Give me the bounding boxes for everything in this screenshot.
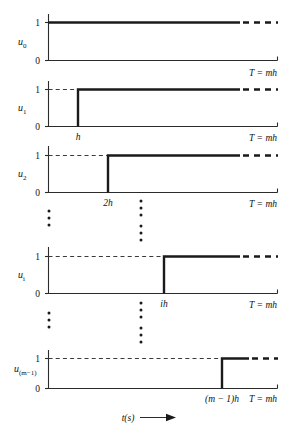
panel-u2-axes (49, 146, 278, 193)
panel-u0-ylabel-sub: 0 (23, 42, 27, 50)
panel-um1-end-label: T = mh (249, 394, 277, 404)
panel-um1: 1 0 u(m−1) (m − 1)h T = mh (14, 350, 278, 405)
panel-u1-ylabel: u1 (18, 102, 27, 116)
panel-u1-signal (78, 90, 240, 127)
panel-u0-end-label: T = mh (249, 68, 277, 78)
panel-u1-end-label: T = mh (249, 133, 277, 143)
x-axis-label: t(s) (122, 413, 135, 424)
panel-u0-ylabel: u0 (18, 36, 27, 50)
panel-ui-ytick-high: 1 (35, 252, 40, 262)
panel-u0-axes (49, 14, 278, 61)
panel-um1-ytick-high: 1 (35, 354, 40, 364)
panel-um1-signal (222, 359, 249, 389)
ellipsis-group-2 (48, 302, 143, 344)
panel-u1: 1 0 u1 h T = mh (18, 81, 278, 143)
panel-ui-ylabel: ui (18, 269, 25, 283)
panel-um1-axes (49, 350, 278, 389)
x-axis-arrow-head (166, 414, 176, 421)
panel-u0: 1 0 u0 T = mh (18, 14, 278, 78)
panel-u2-ylabel-sub: 2 (23, 174, 27, 182)
panel-u1-xtick-label: h (76, 132, 81, 142)
panel-u1-ytick-high: 1 (35, 85, 40, 95)
panel-u1-ylabel-sub: 1 (23, 108, 27, 116)
panel-u2-xtick-label: 2h (103, 198, 113, 208)
step-function-figure: 1 0 u0 T = mh 1 0 u1 h T = mh (0, 0, 300, 433)
panel-u1-axes (49, 81, 278, 127)
panel-ui-ytick-low: 0 (35, 289, 40, 299)
panel-ui-xtick-label: ih (160, 299, 168, 309)
figure-svg: 1 0 u0 T = mh 1 0 u1 h T = mh (0, 0, 300, 433)
panel-um1-xtick-label: (m − 1)h (205, 394, 239, 405)
ellipsis-mid-2 (140, 302, 143, 344)
panel-u2-signal (108, 156, 240, 193)
ellipsis-left-2 (48, 312, 51, 329)
panel-u2-ytick-low: 0 (35, 188, 40, 198)
panel-um1-ylabel: u(m−1) (14, 363, 37, 377)
panel-u2-ylabel: u2 (18, 168, 27, 182)
panel-ui-ylabel-sub: i (23, 275, 25, 283)
panel-ui-signal (164, 257, 240, 294)
panel-um1-ylabel-sub: (m−1) (19, 369, 37, 377)
panel-u0-ytick-low: 0 (35, 56, 40, 66)
panel-ui-end-label: T = mh (249, 300, 277, 310)
panel-u1-ytick-low: 0 (35, 122, 40, 132)
ellipsis-group-1 (48, 200, 143, 242)
panel-u2-ytick-high: 1 (35, 151, 40, 161)
ellipsis-left-1 (48, 210, 51, 227)
panel-u2-end-label: T = mh (249, 199, 277, 209)
x-axis-label-group: t(s) (122, 413, 176, 424)
panel-ui: 1 0 ui ih T = mh (18, 247, 278, 310)
panel-u0-ytick-high: 1 (35, 18, 40, 28)
panel-u2: 1 0 u2 2h T = mh (18, 146, 278, 209)
panel-um1-ytick-low: 0 (35, 384, 40, 394)
ellipsis-mid-1 (140, 200, 143, 242)
